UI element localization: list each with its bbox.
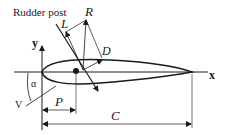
construction-line	[86, 20, 102, 58]
label-x: x	[209, 68, 215, 82]
rudder-post-pivot	[73, 68, 79, 74]
label-alpha: α	[31, 78, 37, 89]
label-L: L	[60, 16, 68, 31]
velocity-line	[26, 86, 56, 106]
drag-vector	[83, 60, 102, 70]
label-y: y	[32, 36, 38, 50]
label-V: V	[15, 99, 23, 110]
rudder-force-diagram: Rudder post R L D y x α V P C	[0, 0, 226, 135]
construction-line	[66, 20, 86, 32]
label-C: C	[111, 108, 120, 123]
resultant-vector	[83, 20, 86, 70]
label-D: D	[101, 44, 111, 58]
label-P: P	[54, 94, 63, 109]
label-R: R	[84, 4, 93, 19]
lift-vector	[66, 32, 83, 70]
label-rudder-post: Rudder post	[13, 6, 66, 18]
